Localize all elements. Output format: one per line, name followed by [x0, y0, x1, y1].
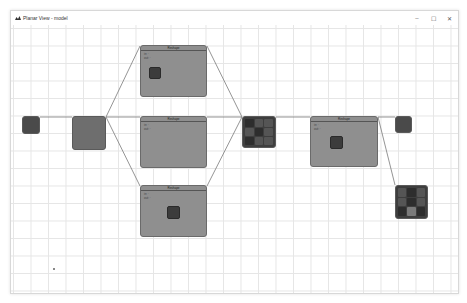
node-stem[interactable]	[72, 116, 106, 150]
node-field: out: ·	[144, 127, 151, 131]
node-branch-bottom[interactable]: Reshape in: · out: ·	[140, 185, 207, 237]
node-process[interactable]: Reshape in: · out: ·	[310, 116, 378, 167]
inner-op-block[interactable]	[149, 67, 161, 79]
inner-op-block[interactable]	[330, 136, 343, 149]
node-merge[interactable]	[242, 116, 276, 148]
node-header: Reshape	[311, 117, 377, 122]
node-header: Reshape	[141, 117, 206, 122]
mouse-cursor	[53, 268, 55, 270]
merge-port-grid	[245, 119, 273, 145]
node-field: out: ·	[144, 56, 151, 60]
node-field: out: ·	[314, 127, 321, 131]
node-output-a[interactable]	[395, 116, 412, 133]
inner-op-block[interactable]	[167, 206, 180, 219]
node-output-b[interactable]	[395, 185, 428, 219]
output-port-grid	[398, 188, 425, 216]
node-header: Reshape	[141, 186, 206, 191]
node-input[interactable]	[22, 116, 40, 134]
node-field: out: ·	[144, 196, 151, 200]
node-branch-top[interactable]: Reshape in: · out: ·	[140, 45, 207, 97]
node-branch-mid[interactable]: Reshape in: · out: ·	[140, 116, 207, 168]
node-header: Reshape	[141, 46, 206, 51]
graph-edges	[0, 0, 467, 303]
